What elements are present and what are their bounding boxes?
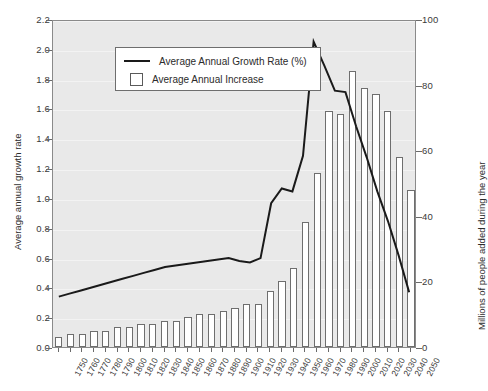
y-axis-left-tick-label: 1.4 <box>16 133 50 144</box>
y-axis-left-tick-label: 1.8 <box>16 74 50 85</box>
x-axis-tick-mark <box>128 348 129 352</box>
x-axis-tick-mark <box>222 348 223 352</box>
x-axis-tick-mark <box>398 348 399 352</box>
x-axis-tick-mark <box>211 348 212 352</box>
legend-line-swatch-icon <box>124 60 150 63</box>
x-axis-tick-mark <box>363 348 364 352</box>
bar <box>220 311 227 347</box>
y-axis-left-tick-mark <box>46 80 52 81</box>
bar <box>384 111 391 347</box>
y-axis-left-tick-label: 1.6 <box>16 103 50 114</box>
bar <box>90 331 97 347</box>
bar <box>126 327 133 347</box>
x-axis-tick-mark <box>175 348 176 352</box>
bar <box>314 173 321 347</box>
y-axis-right-title: Millions of people added during the year <box>476 162 487 330</box>
x-axis-tick-mark <box>58 348 59 352</box>
x-axis-tick-mark <box>410 348 411 352</box>
bar <box>102 331 109 347</box>
y-axis-right-tick-mark <box>416 348 422 349</box>
x-axis-tick-mark <box>246 348 247 352</box>
x-axis-tick-mark <box>152 348 153 352</box>
y-axis-left-tick-mark <box>46 348 52 349</box>
bar <box>184 317 191 347</box>
x-axis-tick-mark <box>316 348 317 352</box>
y-axis-right-tick-label: 100 <box>422 14 456 25</box>
x-axis-tick-mark <box>351 348 352 352</box>
x-axis-tick-mark <box>164 348 165 352</box>
y-axis-left-tick-mark <box>46 229 52 230</box>
chart-figure: Average annual growth rate Millions of p… <box>0 0 488 391</box>
y-axis-left-tick-label: 1.2 <box>16 163 50 174</box>
y-axis-right-tick-label: 40 <box>422 211 456 222</box>
legend-label-annual-increase: Average Annual Increase <box>152 74 264 85</box>
legend-square-swatch-icon <box>130 73 143 86</box>
y-axis-left-tick-label: 2.0 <box>16 44 50 55</box>
bar <box>290 268 297 347</box>
y-axis-left-tick-mark <box>46 199 52 200</box>
x-axis-tick-mark <box>375 348 376 352</box>
y-axis-left-tick-label: 2.2 <box>16 14 50 25</box>
bar <box>79 334 86 347</box>
bar <box>196 314 203 347</box>
bar <box>255 304 262 347</box>
y-axis-left-tick-mark <box>46 50 52 51</box>
bar <box>278 281 285 347</box>
y-axis-left-tick-label: 0.8 <box>16 223 50 234</box>
x-axis-tick-mark <box>199 348 200 352</box>
x-axis-tick-mark <box>117 348 118 352</box>
x-axis-tick-mark <box>234 348 235 352</box>
bar <box>302 222 309 347</box>
bar <box>55 337 62 347</box>
x-axis-tick-mark <box>257 348 258 352</box>
legend-item-annual-increase: Average Annual Increase <box>124 70 264 88</box>
x-axis-tick-mark <box>304 348 305 352</box>
y-axis-left-tick-mark <box>46 109 52 110</box>
x-axis-tick-mark <box>70 348 71 352</box>
x-axis-ticks: 1750176017701780179018001810182018301840… <box>0 352 488 391</box>
bar <box>407 190 414 347</box>
x-axis-tick-mark <box>187 348 188 352</box>
y-axis-left-tick-mark <box>46 259 52 260</box>
y-axis-right-tick-label: 80 <box>422 80 456 91</box>
y-axis-right-tick-mark <box>416 20 422 21</box>
y-axis-right-tick-mark <box>416 282 422 283</box>
bar <box>325 111 332 347</box>
y-axis-right-tick-label: 20 <box>422 276 456 287</box>
y-axis-left-tick-mark <box>46 169 52 170</box>
bar <box>361 88 368 347</box>
bar <box>173 321 180 347</box>
bar <box>67 334 74 347</box>
x-axis-tick-mark <box>281 348 282 352</box>
x-axis-tick-mark <box>105 348 106 352</box>
x-axis-tick-mark <box>328 348 329 352</box>
y-axis-left-tick-mark <box>46 318 52 319</box>
bar <box>114 327 121 347</box>
bar <box>396 157 403 347</box>
bar <box>231 308 238 347</box>
y-axis-left-tick-mark <box>46 20 52 21</box>
x-axis-tick-mark <box>293 348 294 352</box>
y-axis-left-tick-mark <box>46 139 52 140</box>
x-axis-tick-mark <box>93 348 94 352</box>
plot-area: Average Annual Growth Rate (%) Average A… <box>52 20 416 348</box>
legend-item-growth-rate: Average Annual Growth Rate (%) <box>124 52 307 70</box>
y-axis-left-tick-label: 0.4 <box>16 282 50 293</box>
bar <box>267 291 274 347</box>
legend-label-growth-rate: Average Annual Growth Rate (%) <box>159 56 307 67</box>
x-axis-tick-mark <box>387 348 388 352</box>
bar <box>372 94 379 347</box>
y-axis-right-tick-mark <box>416 86 422 87</box>
y-axis-left-tick-label: 0.2 <box>16 312 50 323</box>
bar <box>137 324 144 347</box>
x-axis-tick-mark <box>340 348 341 352</box>
y-axis-right-tick-mark <box>416 151 422 152</box>
chart-legend: Average Annual Growth Rate (%) Average A… <box>115 47 321 91</box>
bar <box>243 304 250 347</box>
y-axis-right-tick-label: 60 <box>422 145 456 156</box>
bar <box>161 321 168 347</box>
y-axis-left-tick-label: 1.0 <box>16 193 50 204</box>
bar <box>337 114 344 347</box>
bar <box>149 324 156 347</box>
y-axis-left-tick-mark <box>46 288 52 289</box>
